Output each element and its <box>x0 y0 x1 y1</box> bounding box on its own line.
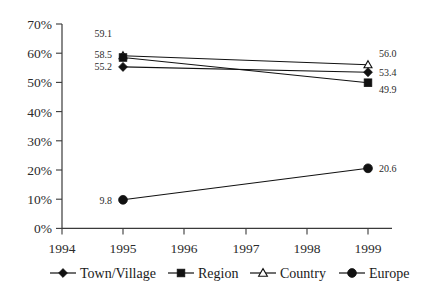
y-axis: 70% 60% 50% 40% 30% 20% 10% 0% <box>27 17 62 236</box>
data-point-labels: 59.1 58.5 55.2 9.8 56.0 53.4 49.9 20.6 <box>95 28 397 206</box>
marker-europe-1999 <box>364 164 373 173</box>
line-chart: 70% 60% 50% 40% 30% 20% 10% 0% 1994 1995… <box>0 0 435 292</box>
marker-region-1999 <box>364 79 372 87</box>
label-country-1995: 59.1 <box>95 28 113 39</box>
y-axis-label-50: 50% <box>27 75 52 90</box>
legend-label-europe: Europe <box>369 266 409 281</box>
marker-region-1995 <box>119 54 127 62</box>
series-country-line <box>123 56 368 65</box>
label-town-1995: 55.2 <box>95 61 113 72</box>
legend-label-town-village: Town/Village <box>80 266 156 281</box>
label-country-1999: 56.0 <box>379 48 397 59</box>
x-axis-label-1994: 1994 <box>49 241 76 256</box>
series-town-village-line <box>123 67 368 72</box>
legend-item-europe[interactable]: Europe <box>339 266 409 281</box>
series-town-village <box>119 62 373 76</box>
x-axis: 1994 1995 1996 1997 1998 1999 <box>49 228 393 256</box>
x-axis-label-1997: 1997 <box>233 241 260 256</box>
label-region-1995: 58.5 <box>95 49 113 60</box>
y-axis-label-30: 30% <box>27 134 52 149</box>
x-axis-label-1995: 1995 <box>110 241 137 256</box>
marker-town-village-1999 <box>364 68 373 77</box>
legend-item-town-village[interactable]: Town/Village <box>50 266 156 281</box>
series-europe <box>119 164 373 204</box>
label-europe-1995: 9.8 <box>100 195 113 206</box>
y-axis-label-20: 20% <box>27 163 52 178</box>
filled-diamond-icon <box>59 269 68 278</box>
label-region-1999: 49.9 <box>379 84 397 95</box>
series-europe-line <box>123 168 368 200</box>
legend-label-country: Country <box>280 266 326 281</box>
legend-label-region: Region <box>198 266 238 281</box>
label-town-1999: 53.4 <box>379 67 397 78</box>
x-axis-label-1999: 1999 <box>355 241 382 256</box>
marker-europe-1995 <box>119 195 128 204</box>
x-axis-label-1998: 1998 <box>294 241 321 256</box>
y-axis-label-10: 10% <box>27 192 52 207</box>
x-axis-label-1996: 1996 <box>171 241 198 256</box>
series-country <box>119 52 372 68</box>
y-axis-label-70: 70% <box>27 17 52 32</box>
filled-circle-icon <box>348 269 357 278</box>
label-europe-1999: 20.6 <box>379 163 397 174</box>
filled-square-icon <box>177 269 185 277</box>
y-axis-label-0: 0% <box>34 221 52 236</box>
y-axis-label-60: 60% <box>27 46 52 61</box>
legend-item-region[interactable]: Region <box>168 266 238 281</box>
y-axis-label-40: 40% <box>27 105 52 120</box>
marker-town-village-1995 <box>119 62 128 71</box>
chart-canvas: 70% 60% 50% 40% 30% 20% 10% 0% 1994 1995… <box>0 0 435 292</box>
chart-legend: Town/Village Region Country Europe <box>50 266 409 281</box>
legend-item-country[interactable]: Country <box>250 266 326 281</box>
